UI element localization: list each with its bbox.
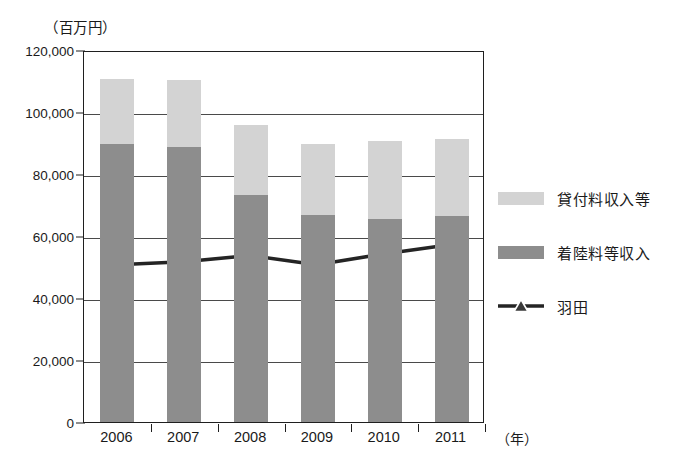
bar-group[interactable] <box>234 50 268 422</box>
gridline <box>84 238 483 239</box>
bar-segment[interactable] <box>100 144 134 422</box>
bar-segment[interactable] <box>167 147 201 422</box>
bar-segment[interactable] <box>435 139 469 216</box>
bar-group[interactable] <box>167 50 201 422</box>
y-axis-unit-label: （百万円） <box>44 16 117 37</box>
legend-line-triangle-icon <box>498 298 544 314</box>
chart-legend: 貸付料収入等 着陸料等収入 羽田 <box>498 181 674 343</box>
bar-segment[interactable] <box>368 141 402 219</box>
legend-label-loan-revenue: 貸付料収入等 <box>557 188 650 209</box>
line-series-haneda <box>84 52 483 422</box>
gridline <box>84 114 483 115</box>
y-axis-tick-label: 60,000 <box>0 230 74 245</box>
x-axis-tick-label: 2008 <box>215 429 285 445</box>
bar-group[interactable] <box>368 50 402 422</box>
y-axis-tick-label: 20,000 <box>0 354 74 369</box>
y-axis-tick-label: 100,000 <box>0 106 74 121</box>
x-axis-unit-label: （年） <box>496 428 538 448</box>
y-axis-tick-label: 0 <box>0 416 74 431</box>
legend-label-landing-fee-revenue: 着陸料等収入 <box>557 242 650 263</box>
y-axis-tick-label: 40,000 <box>0 292 74 307</box>
legend-swatch-dark-icon <box>498 246 544 259</box>
bar-group[interactable] <box>100 50 134 422</box>
gridline <box>84 362 483 363</box>
bar-group[interactable] <box>301 50 335 422</box>
bar-segment[interactable] <box>301 144 335 215</box>
x-axis-tick-label: 2011 <box>416 429 486 445</box>
stacked-bar-line-chart: （百万円） 020,00040,00060,00080,000100,00012… <box>0 0 678 465</box>
x-axis-tick-label: 2006 <box>81 429 151 445</box>
bar-segment[interactable] <box>301 215 335 422</box>
x-axis-tick-label: 2009 <box>282 429 352 445</box>
bar-segment[interactable] <box>368 219 402 422</box>
y-axis-tick-label: 120,000 <box>0 44 74 59</box>
legend-item-haneda[interactable]: 羽田 <box>498 289 674 323</box>
legend-label-haneda: 羽田 <box>557 296 588 317</box>
gridline <box>84 300 483 301</box>
plot-area <box>83 51 484 423</box>
bar-segment[interactable] <box>167 80 201 147</box>
y-axis-tick-label: 80,000 <box>0 168 74 183</box>
bar-segment[interactable] <box>100 79 134 144</box>
bar-group[interactable] <box>435 50 469 422</box>
x-axis-tick-label: 2007 <box>148 429 218 445</box>
bar-segment[interactable] <box>234 195 268 422</box>
legend-item-landing-fee-revenue[interactable]: 着陸料等収入 <box>498 235 674 269</box>
bar-segment[interactable] <box>435 216 469 422</box>
gridline <box>84 176 483 177</box>
bar-segment[interactable] <box>234 125 268 195</box>
legend-swatch-light-icon <box>498 192 544 205</box>
x-axis-tick-label: 2010 <box>349 429 419 445</box>
legend-item-loan-revenue[interactable]: 貸付料収入等 <box>498 181 674 215</box>
